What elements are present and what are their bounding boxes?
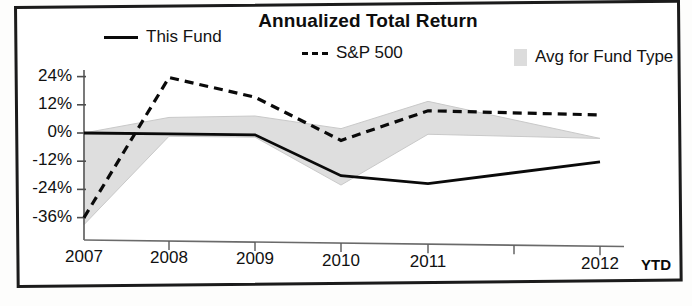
x-tick-label: 2012 xyxy=(565,254,635,274)
chart-plate: Annualized Total Return This Fund S&P 50… xyxy=(0,0,692,306)
x-tick-label: 2011 xyxy=(393,252,463,272)
x-tick-label: 2007 xyxy=(49,247,119,267)
plot-area: 24%12%0%-12%-24%-36% 2007200820092010201… xyxy=(0,0,692,306)
y-tick-label: 12% xyxy=(6,94,72,114)
y-tick-label: -36% xyxy=(6,207,72,227)
chart-screenshot: Annualized Total Return This Fund S&P 50… xyxy=(0,0,692,306)
avg-fund-type-band xyxy=(84,101,600,224)
x-tick-label: 2010 xyxy=(306,251,376,271)
y-tick-label: 0% xyxy=(6,122,72,142)
x-tick-label: 2008 xyxy=(134,248,204,268)
y-tick-label: 24% xyxy=(6,66,72,86)
y-tick-label: -24% xyxy=(6,178,72,198)
y-tick-label: -12% xyxy=(6,150,72,170)
x-tick-label: 2009 xyxy=(220,249,290,269)
ytd-label: YTD xyxy=(641,256,671,273)
